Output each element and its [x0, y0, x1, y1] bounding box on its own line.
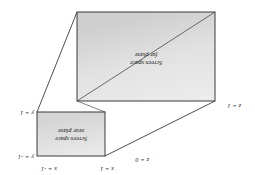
diagram-canvas: Screen space near plane Screen space far…: [0, 0, 255, 175]
far-plane-caption-line1: Screen space: [109, 59, 183, 67]
far-plane-caption-line2: far plane: [109, 51, 183, 59]
frustum-edge-top-left: [105, 101, 215, 156]
frustum-edge-interior: [77, 101, 105, 112]
near-plane-caption: Screen space near plane: [39, 127, 103, 143]
far-plane-caption: Screen space far plane: [109, 51, 183, 67]
near-plane-caption-line2: near plane: [39, 127, 103, 135]
label-x-right: x = -1: [41, 166, 57, 173]
label-x-left: x = 1: [100, 166, 114, 173]
frustum-edge-bottom-right: [37, 12, 77, 112]
rotated-figure-group: Screen space near plane Screen space far…: [0, 0, 255, 175]
label-z-far: z = 1: [227, 103, 241, 110]
frustum-svg: [0, 0, 255, 175]
label-z-near: z = 0: [135, 157, 149, 164]
label-y-top: y = -1: [18, 154, 34, 161]
near-plane-caption-line1: Screen space: [39, 135, 103, 143]
label-y-bottom: y = 1: [20, 110, 34, 117]
